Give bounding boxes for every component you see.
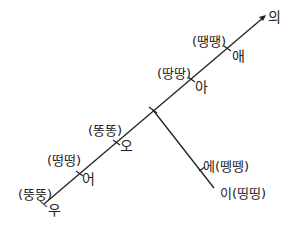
branch-label-i: 이(띵띵) (220, 186, 266, 201)
vowel-ae: 애 (232, 49, 245, 64)
vowel-eo: 어 (82, 172, 95, 187)
example-eo: (떵떵) (47, 153, 81, 168)
branch-line (153, 110, 214, 188)
example-o: (똥똥) (88, 123, 122, 138)
example-a: (땅땅) (157, 66, 191, 81)
example-u: (뚱뚱) (18, 187, 52, 202)
branch-label-e: 에(뗑뗑) (203, 159, 249, 174)
label-ui: 의 (268, 10, 281, 25)
vowel-u: 우 (48, 203, 61, 218)
vowel-a: 아 (195, 80, 208, 95)
example-ae: (땡땡) (192, 34, 226, 49)
vowel-o: 오 (120, 139, 133, 154)
